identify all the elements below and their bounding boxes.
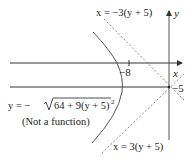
equation-lhs: y = −: [8, 100, 30, 111]
y-tick-label: −5: [172, 82, 184, 94]
equation-radicand: 64 + 9(y + 5): [54, 100, 110, 112]
curve-equation: y = − 64 + 9(y + 5) 2: [8, 98, 115, 112]
x-tick-label: −8: [119, 66, 131, 78]
y-axis-label: y: [173, 7, 179, 19]
x-axis-label: x: [172, 67, 178, 79]
curve-note: (Not a function): [22, 116, 90, 128]
hyperbola-diagram: y x −8 −5 x = −3(y + 5) x = 3(y + 5) y =…: [0, 0, 188, 160]
equation-exponent: 2: [111, 98, 115, 106]
asymptote-lower-label: x = 3(y + 5): [113, 141, 164, 153]
asymptote-upper-label: x = −3(y + 5): [96, 7, 153, 19]
